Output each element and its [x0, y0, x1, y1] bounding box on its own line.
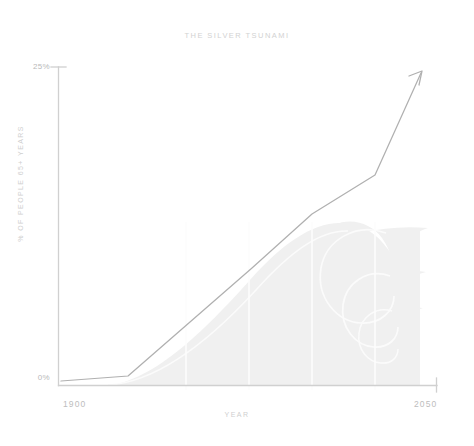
y-axis-tick-label-min: 0% [8, 373, 50, 382]
x-axis-title: YEAR [0, 411, 474, 418]
chart-canvas [0, 0, 474, 446]
y-axis-title: % OF PEOPLE 65+ YEARS [17, 104, 24, 264]
x-axis-tick-label-end: 2050 [414, 399, 437, 409]
chart-container: THE SILVER TSUNAMI 25% 0% 1900 2050 YEAR… [0, 0, 474, 446]
tsunami-wave-illustration [100, 222, 428, 386]
series-arrowhead [409, 71, 422, 85]
chart-title: THE SILVER TSUNAMI [0, 31, 474, 40]
y-axis-tick-label-max: 25% [8, 62, 50, 71]
x-axis-tick-label-start: 1900 [63, 399, 86, 409]
